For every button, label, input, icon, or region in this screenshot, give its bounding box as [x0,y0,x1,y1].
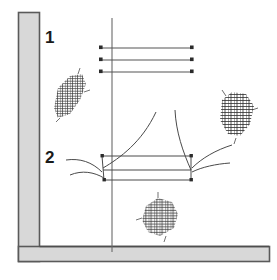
frame-horizontal-bar [19,247,270,262]
horizontal-line-group [99,46,194,74]
hatch-patch-right [220,90,258,144]
hatch-patch-bottom [136,192,178,242]
leader-curve-callout-2-lower [70,172,104,178]
leader-curve-callout-2-upper [66,160,102,173]
leader-curve-left-ascending [103,112,156,168]
horizontal-line-1-marker-right [190,46,194,50]
callout-label-1: 1 [45,29,54,46]
box-corner-marker-bottom-left [103,178,106,181]
leader-curve-right-lower [192,163,230,172]
horizontal-line-2-marker-left [99,58,103,62]
box-corner-marker-bottom-right [190,178,193,181]
callout-label-2: 2 [45,149,54,166]
leader-curve-right-ascending [175,110,191,170]
box-corner-marker-top-left [101,154,104,157]
frame-group [19,13,270,262]
leader-curve-right-upper [192,145,232,168]
hatch-patch-left [54,68,90,122]
frame-vertical-bar [19,13,40,262]
box-corner-marker-top-right [190,154,193,157]
horizontal-line-3-marker-right [190,70,194,74]
trapezoid-element [101,154,193,181]
diagram-svg [0,0,277,280]
figure-canvas: 1 2 [0,0,277,280]
horizontal-line-1-marker-left [99,46,103,50]
horizontal-line-2-marker-right [190,58,194,62]
horizontal-line-3-marker-left [99,70,103,74]
